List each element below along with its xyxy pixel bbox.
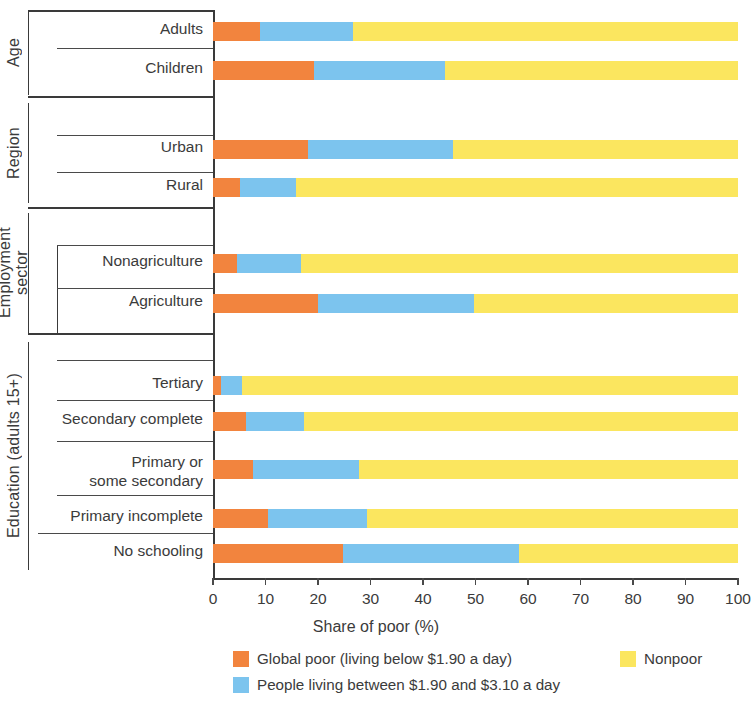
- x-tick-label-30: 30: [362, 590, 379, 608]
- bar-row-tertiary: [213, 376, 738, 395]
- bar-segment-tertiary-global-poor: [213, 376, 221, 395]
- cat-label-adults: Adults: [38, 21, 210, 37]
- cat-label-no-schooling: No schooling: [38, 543, 210, 559]
- bar-row-agriculture: [213, 294, 738, 313]
- legend-label-global-poor: Global poor (living below $1.90 a day): [257, 650, 512, 667]
- legend: Global poor (living below $1.90 a day) N…: [0, 648, 752, 708]
- bar-segment-urban-global-poor: [213, 140, 308, 159]
- bar-segment-primary-incomplete-people-living-between-1-90-and-3-10-a-day: [268, 509, 367, 528]
- bar-segment-agriculture-nonpoor: [474, 294, 738, 313]
- plot-area: Age Region Employment sector Education (…: [0, 0, 752, 578]
- group-divider-region: [28, 103, 29, 203]
- group-label-education: Education (adults 15+): [0, 342, 28, 570]
- legend-item-between: People living between $1.90 and $3.10 a …: [233, 676, 560, 693]
- bar-segment-primary-incomplete-global-poor: [213, 509, 268, 528]
- cat-label-children: Children: [38, 60, 210, 76]
- bar-row-adults: [213, 22, 738, 41]
- bar-segment-secondary-complete-people-living-between-1-90-and-3-10-a-day: [246, 412, 304, 431]
- rule-employment-top: [57, 245, 214, 246]
- x-tick-30: [370, 578, 371, 585]
- rule-adults-children: [57, 48, 214, 49]
- rule-region-top: [57, 135, 214, 136]
- cat-label-urban: Urban: [38, 139, 210, 155]
- x-tick-10: [265, 578, 266, 585]
- x-tick-label-90: 90: [677, 590, 694, 608]
- x-tick-label-70: 70: [572, 590, 589, 608]
- rule-urban-rural: [57, 172, 214, 173]
- group-divider-education: [28, 342, 29, 570]
- rule-top: [28, 10, 214, 12]
- bar-segment-rural-people-living-between-1-90-and-3-10-a-day: [240, 178, 296, 197]
- cat-label-primary-incomplete: Primary incomplete: [38, 508, 210, 524]
- bar-row-primary-or-some-secondary: [213, 460, 738, 479]
- x-tick-70: [580, 578, 581, 585]
- x-tick-label-100: 100: [725, 590, 751, 608]
- bar-segment-agriculture-global-poor: [213, 294, 318, 313]
- bar-row-children: [213, 61, 738, 80]
- x-tick-label-0: 0: [209, 590, 218, 608]
- x-tick-0: [212, 578, 213, 585]
- legend-swatch-global-poor: [233, 651, 249, 667]
- rule-primaryinc-noschool: [38, 533, 214, 534]
- group-label-employment: Employment sector: [0, 213, 28, 333]
- bar-segment-nonagriculture-people-living-between-1-90-and-3-10-a-day: [237, 254, 302, 273]
- bar-row-primary-incomplete: [213, 509, 738, 528]
- cat-label-nonagriculture: Nonagriculture: [38, 253, 210, 269]
- rule-age-region: [28, 96, 214, 98]
- cat-label-secondary-complete: Secondary complete: [38, 411, 210, 427]
- bar-segment-no-schooling-global-poor: [213, 544, 343, 563]
- bar-segment-primary-or-some-secondary-people-living-between-1-90-and-3-10-a-day: [253, 460, 360, 479]
- bar-row-no-schooling: [213, 544, 738, 563]
- bar-segment-children-nonpoor: [445, 61, 738, 80]
- cat-label-rural: Rural: [38, 177, 210, 193]
- x-tick-90: [685, 578, 686, 585]
- x-tick-label-20: 20: [309, 590, 326, 608]
- legend-swatch-between: [233, 677, 249, 693]
- bar-segment-adults-global-poor: [213, 22, 260, 41]
- legend-item-nonpoor: Nonpoor: [620, 650, 702, 667]
- group-divider-employment: [28, 213, 29, 333]
- x-tick-label-50: 50: [467, 590, 484, 608]
- x-tick-label-80: 80: [624, 590, 641, 608]
- rule-nonag-ag: [57, 288, 214, 289]
- bar-row-rural: [213, 178, 738, 197]
- group-divider-age: [28, 10, 29, 95]
- bar-segment-adults-people-living-between-1-90-and-3-10-a-day: [260, 22, 353, 41]
- x-tick-100: [737, 578, 738, 585]
- x-tick-50: [475, 578, 476, 585]
- bar-row-nonagriculture: [213, 254, 738, 273]
- bar-segment-rural-global-poor: [213, 178, 240, 197]
- x-tick-20: [317, 578, 318, 585]
- legend-swatch-nonpoor: [620, 651, 636, 667]
- bar-segment-secondary-complete-nonpoor: [304, 412, 738, 431]
- bar-segment-primary-or-some-secondary-nonpoor: [359, 460, 738, 479]
- bar-row-urban: [213, 140, 738, 159]
- rule-primaryor-primaryinc: [57, 495, 214, 496]
- cat-label-primary-or-some-secondary: Primary or some secondary: [38, 452, 210, 490]
- group-label-age: Age: [0, 10, 28, 95]
- bar-segment-urban-nonpoor: [453, 140, 738, 159]
- rule-secondary-primaryor: [57, 441, 214, 442]
- bar-segment-agriculture-people-living-between-1-90-and-3-10-a-day: [318, 294, 474, 313]
- x-tick-label-10: 10: [257, 590, 274, 608]
- bar-segment-tertiary-people-living-between-1-90-and-3-10-a-day: [221, 376, 243, 395]
- bar-segment-urban-people-living-between-1-90-and-3-10-a-day: [308, 140, 453, 159]
- bar-segment-primary-or-some-secondary-global-poor: [213, 460, 253, 479]
- cat-label-agriculture: Agriculture: [38, 293, 210, 309]
- bar-segment-children-global-poor: [213, 61, 314, 80]
- legend-item-global-poor: Global poor (living below $1.90 a day): [233, 650, 512, 667]
- bar-segment-nonagriculture-global-poor: [213, 254, 237, 273]
- bar-segment-nonagriculture-nonpoor: [301, 254, 738, 273]
- cat-label-tertiary: Tertiary: [38, 375, 210, 391]
- x-axis-title: Share of poor (%): [0, 618, 752, 636]
- bar-segment-tertiary-nonpoor: [242, 376, 738, 395]
- group-label-region: Region: [0, 103, 28, 203]
- x-tick-label-40: 40: [414, 590, 431, 608]
- rule-education-top: [57, 360, 214, 361]
- bar-segment-secondary-complete-global-poor: [213, 412, 246, 431]
- rule-tertiary-secondary: [57, 400, 214, 401]
- rule-employment-education: [28, 333, 214, 335]
- legend-label-between: People living between $1.90 and $3.10 a …: [257, 676, 560, 693]
- bar-segment-children-people-living-between-1-90-and-3-10-a-day: [314, 61, 444, 80]
- x-tick-40: [422, 578, 423, 585]
